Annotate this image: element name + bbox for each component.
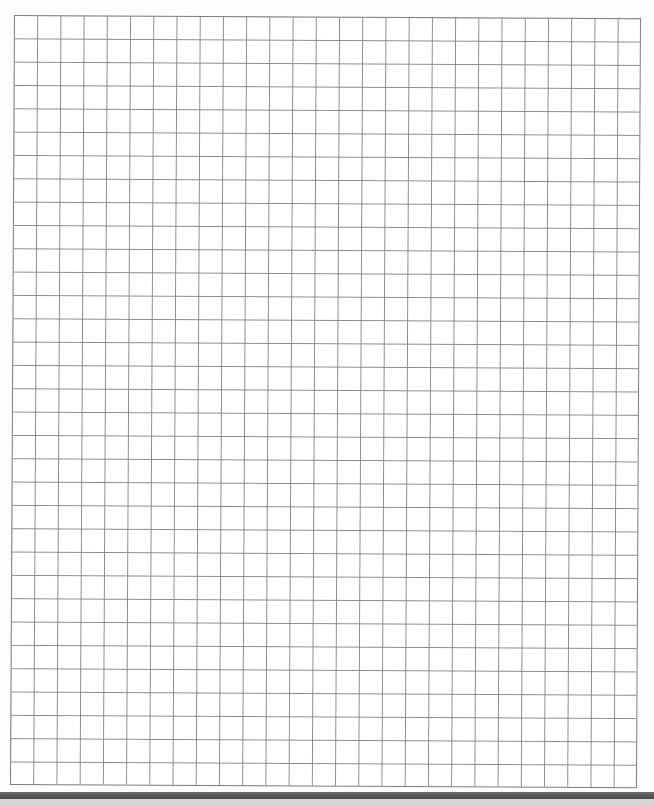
bottom-shadow-bar (0, 792, 654, 799)
grid-container (10, 15, 641, 788)
bottom-surface-strip (0, 799, 654, 806)
graph-paper-page (0, 0, 654, 792)
square-grid (10, 15, 641, 788)
